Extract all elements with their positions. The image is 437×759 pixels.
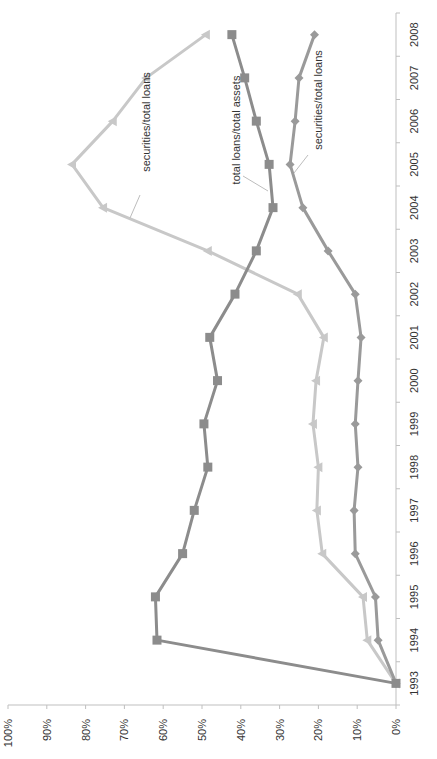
value-tick-label: 0% <box>390 719 402 735</box>
series-line <box>290 35 396 684</box>
square-marker <box>178 549 187 558</box>
diamond-marker <box>353 463 362 472</box>
diamond-marker <box>295 73 304 82</box>
category-label: 1998 <box>408 455 420 479</box>
square-marker <box>269 203 278 212</box>
diamond-marker <box>286 160 295 169</box>
category-label: 2002 <box>408 282 420 306</box>
value-tick-label: 40% <box>235 719 247 741</box>
category-label: 1993 <box>408 671 420 695</box>
leader-line <box>294 155 308 173</box>
series-callout-label: securities/total loans <box>312 50 324 150</box>
diamond-marker <box>351 419 360 428</box>
category-label: 1999 <box>408 412 420 436</box>
square-marker <box>151 592 160 601</box>
category-label: 2001 <box>408 325 420 349</box>
diamond-marker <box>374 636 383 645</box>
square-marker <box>227 30 236 39</box>
category-label: 2005 <box>408 152 420 176</box>
category-label: 2006 <box>408 109 420 133</box>
leader-line <box>243 176 268 191</box>
category-label: 2004 <box>408 195 420 219</box>
value-tick-label: 90% <box>41 719 53 741</box>
square-marker <box>252 117 261 126</box>
value-tick-label: 30% <box>274 719 286 741</box>
value-tick-label: 10% <box>351 719 363 741</box>
series-callout-label: total loans/total assets <box>230 75 242 184</box>
square-marker <box>199 419 208 428</box>
triangle-marker <box>67 159 76 169</box>
diamond-marker <box>351 549 360 558</box>
triangle-marker <box>203 246 212 256</box>
diamond-marker <box>350 506 359 515</box>
square-marker <box>205 333 214 342</box>
square-marker <box>152 636 161 645</box>
series-diamond <box>286 30 401 688</box>
triangle-marker <box>293 289 302 299</box>
category-label: 1997 <box>408 498 420 522</box>
value-tick-label: 100% <box>2 719 14 747</box>
square-marker <box>230 290 239 299</box>
category-label: 2008 <box>408 22 420 46</box>
chart-canvas: 0%10%20%30%40%50%60%70%80%90%100%1993199… <box>0 0 437 759</box>
square-marker <box>265 160 274 169</box>
series-callout-label: securities/total loans <box>140 72 152 172</box>
diamond-marker <box>353 376 362 385</box>
value-tick-label: 80% <box>80 719 92 741</box>
square-marker <box>213 376 222 385</box>
category-label: 1994 <box>408 628 420 652</box>
series-square <box>151 30 401 688</box>
category-label: 2000 <box>408 368 420 392</box>
diamond-marker <box>310 30 319 39</box>
square-marker <box>392 679 401 688</box>
category-label: 2007 <box>408 66 420 90</box>
value-tick-label: 60% <box>157 719 169 741</box>
value-tick-label: 50% <box>196 719 208 741</box>
square-marker <box>203 463 212 472</box>
line-chart: 0%10%20%30%40%50%60%70%80%90%100%1993199… <box>0 0 437 759</box>
diamond-marker <box>371 592 380 601</box>
square-marker <box>252 246 261 255</box>
value-tick-label: 20% <box>312 719 324 741</box>
category-label: 1996 <box>408 541 420 565</box>
leader-line <box>130 195 140 218</box>
diamond-marker <box>357 333 366 342</box>
square-marker <box>190 506 199 515</box>
category-label: 2003 <box>408 239 420 263</box>
category-label: 1995 <box>408 585 420 609</box>
value-tick-label: 70% <box>118 719 130 741</box>
diamond-marker <box>291 117 300 126</box>
